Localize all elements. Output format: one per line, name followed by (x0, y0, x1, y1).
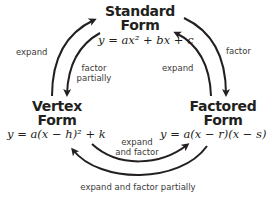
label-standard-to-vertex: factor partially (74, 64, 114, 83)
label-vertex-to-standard: expand (16, 48, 48, 58)
standard-form-equation: y = ax² + bx + c (98, 33, 194, 47)
vertex-form-title: Vertex Form (22, 99, 92, 127)
factored-form-equation: y = a(x − r)(x − s) (160, 127, 267, 141)
factored-form-title: Factored Form (181, 99, 265, 127)
standard-form-title-line1: Standard (100, 4, 180, 18)
label-vertex-to-factored: expand and factor (112, 138, 162, 157)
vertex-form-title-line2: Form (22, 113, 92, 127)
label-standard-to-factored: factor (226, 47, 251, 57)
vertex-form-equation: y = a(x − h)² + k (7, 127, 106, 141)
arrow-vertex-to-standard (52, 20, 94, 96)
label-factored-to-standard: expand (162, 64, 194, 74)
standard-form-title: Standard Form (100, 4, 180, 32)
quadratic-forms-diagram: Standard Form y = ax² + bx + c Vertex Fo… (0, 0, 274, 209)
arrow-standard-to-factored (184, 18, 226, 94)
factored-form-title-line1: Factored (181, 99, 265, 113)
label-factored-to-vertex: expand and factor partially (78, 183, 198, 193)
standard-form-title-line2: Form (100, 18, 180, 32)
vertex-form-title-line1: Vertex (22, 99, 92, 113)
factored-form-title-line2: Form (181, 113, 265, 127)
